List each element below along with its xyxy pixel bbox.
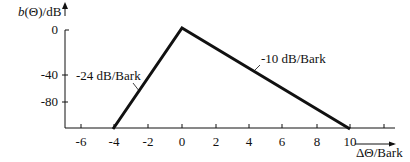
left-slope-label: -24 dB/Bark bbox=[76, 68, 141, 83]
x-tick: -6 bbox=[76, 134, 87, 149]
y-tick-80: -80 bbox=[41, 94, 58, 109]
x-tick: 2 bbox=[213, 134, 220, 149]
y-tick-0: 0 bbox=[52, 22, 59, 37]
x-tick: 8 bbox=[314, 134, 321, 149]
chart: 0 -40 -80 -6 -4 -2 0 2 4 6 8 10 -24 dB/B… bbox=[0, 0, 410, 162]
y-arrow-icon bbox=[62, 2, 68, 9]
x-axis-label: ΔΘ/Bark bbox=[356, 145, 403, 160]
x-tick: 0 bbox=[179, 134, 186, 149]
x-tick: 10 bbox=[344, 134, 357, 149]
y-tick-40: -40 bbox=[41, 67, 58, 82]
x-tick: 4 bbox=[246, 134, 253, 149]
right-slope-label: -10 dB/Bark bbox=[261, 51, 326, 66]
x-tick: 6 bbox=[279, 134, 286, 149]
x-tick: -4 bbox=[109, 134, 120, 149]
x-tick: -2 bbox=[143, 134, 154, 149]
spreading-function-line bbox=[113, 28, 350, 129]
y-axis-label: b(Θ)/dB bbox=[18, 4, 62, 19]
